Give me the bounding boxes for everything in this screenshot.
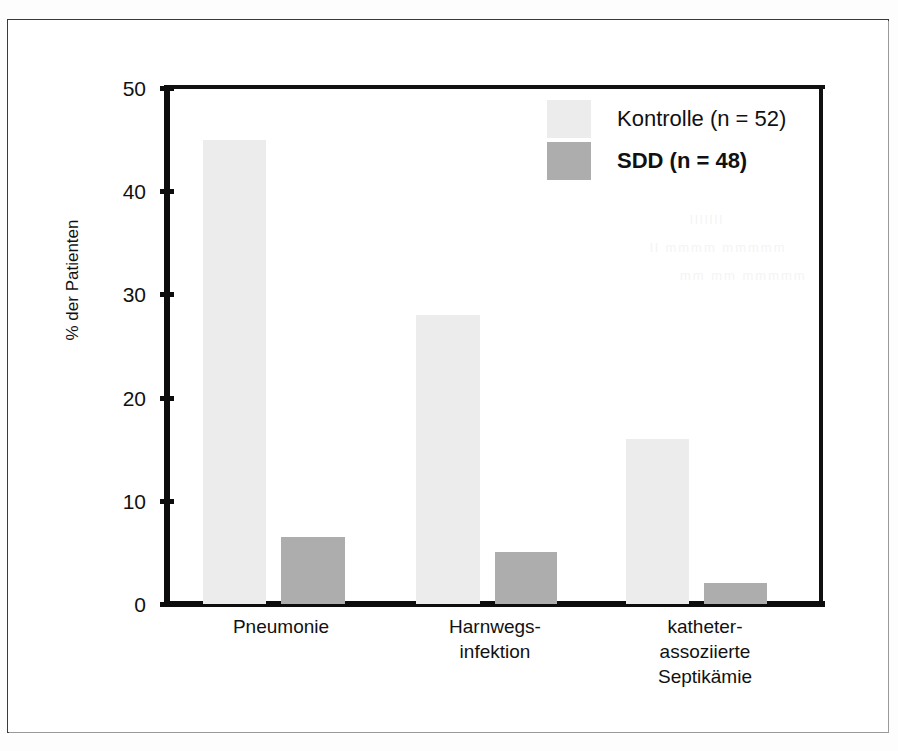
x-axis-label-harnwegsinfektion-line1: Harnwegs- (385, 614, 605, 639)
legend-item-kontrolle: Kontrolle (n = 52) (547, 98, 827, 140)
bar-kontrolle-harnwegsinfektion (416, 315, 480, 604)
x-axis-label-harnwegsinfektion-line2: infektion (385, 639, 605, 664)
legend-item-sdd: SDD (n = 48) (547, 140, 827, 182)
bar-kontrolle-pneumonie (203, 140, 266, 604)
y-axis-title: % der Patienten (63, 165, 83, 395)
bar-kontrolle-katheter-septikaemie (626, 439, 689, 604)
legend-label-sdd: SDD (n = 48) (617, 148, 747, 174)
x-axis-label-katheter-septikaemie: katheter- assoziierte Septikämie (595, 614, 815, 689)
y-axis-tick-labels: 50 40 30 20 10 0 (86, 0, 146, 751)
legend-label-kontrolle: Kontrolle (n = 52) (617, 106, 786, 132)
x-axis-label-katheter-septikaemie-line3: Septikämie (595, 664, 815, 689)
bar-sdd-pneumonie (281, 537, 345, 604)
y-tick-label-30: 30 (86, 284, 146, 305)
x-axis-label-pneumonie-line1: Pneumonie (171, 614, 391, 639)
chart-canvas: lllllll ll mmmm mmmmm mm mm mmmmm % der … (0, 0, 898, 751)
bar-sdd-harnwegsinfektion (495, 552, 557, 604)
x-axis-label-pneumonie: Pneumonie (171, 614, 391, 639)
y-tick-label-50: 50 (86, 78, 146, 99)
x-axis-label-harnwegsinfektion: Harnwegs- infektion (385, 614, 605, 664)
x-axis-label-katheter-septikaemie-line1: katheter- (595, 614, 815, 639)
bar-sdd-katheter-septikaemie (704, 583, 767, 604)
legend-swatch-sdd (547, 142, 591, 180)
y-tick-label-20: 20 (86, 388, 146, 409)
y-tick-label-40: 40 (86, 181, 146, 202)
legend-swatch-kontrolle (547, 100, 591, 138)
x-axis-label-katheter-septikaemie-line2: assoziierte (595, 639, 815, 664)
y-tick-label-0: 0 (86, 594, 146, 615)
y-tick-label-10: 10 (86, 491, 146, 512)
legend: Kontrolle (n = 52) SDD (n = 48) (547, 98, 827, 182)
